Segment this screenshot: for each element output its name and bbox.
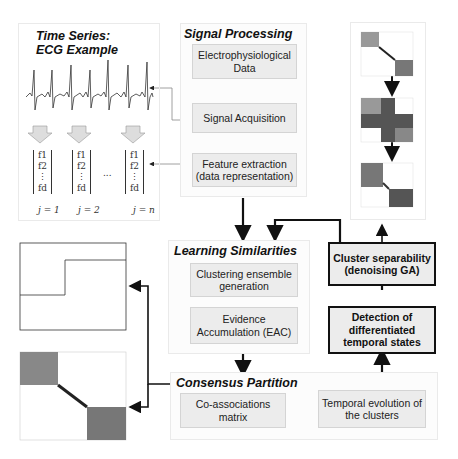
signal-acquisition-box: Signal Acquisition	[192, 103, 297, 133]
feature-extraction-box: Feature extraction (data representation)	[192, 153, 297, 187]
feature-vector-2: f1f2⋮fd	[72, 150, 91, 194]
learning-similarities-title: Learning Similarities	[174, 244, 297, 258]
label-jn: j = n	[133, 205, 155, 215]
time-series-title: Time Series: ECG Example	[36, 29, 118, 57]
electrophysiological-data-box: Electrophysiological Data	[192, 44, 297, 79]
cluster-separability-box: Cluster separability (denoising GA)	[328, 242, 436, 286]
ellipsis: ...	[103, 168, 112, 178]
feature-vector-1: f1f2⋮fd	[33, 150, 52, 194]
detection-temporal-states-box: Detection of differentiated temporal sta…	[328, 306, 436, 354]
signal-processing-title: Signal Processing	[184, 27, 292, 41]
co-associations-matrix-box: Co-associations matrix	[180, 393, 286, 428]
label-j2: j = 2	[78, 205, 100, 215]
label-j1: j = 1	[38, 205, 60, 215]
clustering-ensemble-box: Clustering ensemble generation	[190, 263, 298, 297]
temporal-evolution-box: Temporal evolution of the clusters	[318, 390, 426, 428]
evidence-accumulation-box: Evidence Accumulation (EAC)	[190, 307, 298, 344]
consensus-partition-title: Consensus Partition	[176, 376, 298, 390]
matrix-evolution-panel	[350, 22, 426, 220]
feature-vector-n: f1f2⋮fd	[125, 150, 144, 194]
